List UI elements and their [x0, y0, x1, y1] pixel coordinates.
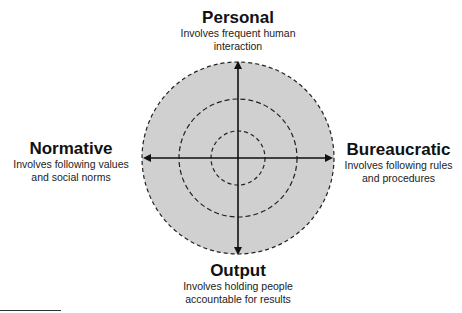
normative-label: Normative Involves following values and …	[0, 140, 142, 184]
bureaucratic-label: Bureaucratic Involves following rules an…	[335, 141, 462, 185]
footnote-rule	[0, 310, 61, 311]
output-description-line1: Involves holding people	[138, 280, 338, 293]
normative-description-line1: Involves following values	[0, 158, 142, 171]
output-description-line2: accountable for results	[138, 293, 338, 306]
personal-description-line2: interaction	[138, 40, 338, 53]
bureaucratic-description-line1: Involves following rules	[335, 159, 462, 172]
personal-description-line1: Involves frequent human	[138, 27, 338, 40]
output-title: Output	[138, 262, 338, 280]
bureaucratic-description-line2: and procedures	[335, 172, 462, 185]
personal-title: Personal	[138, 9, 338, 27]
output-label: Output Involves holding people accountab…	[138, 262, 338, 306]
normative-description-line2: and social norms	[0, 171, 142, 184]
personal-label: Personal Involves frequent human interac…	[138, 9, 338, 53]
bureaucratic-title: Bureaucratic	[335, 141, 462, 159]
normative-title: Normative	[0, 140, 142, 158]
